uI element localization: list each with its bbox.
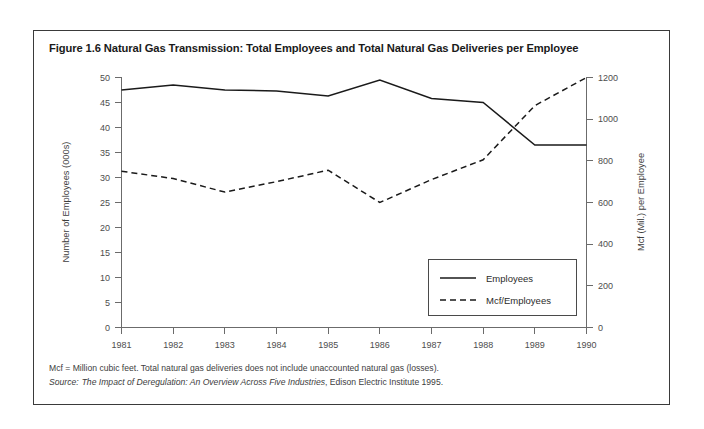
x-tick-label: 1985 xyxy=(318,340,338,350)
y-left-tick-label: 25 xyxy=(100,198,110,208)
x-axis-ticks xyxy=(122,328,587,335)
x-tick-label: 1983 xyxy=(215,340,235,350)
y-left-tick-label: 35 xyxy=(100,148,110,158)
figure-footnotes: Mcf = Million cubic feet. Total natural … xyxy=(49,361,649,389)
y-axis-left-title: Number of Employees (000s) xyxy=(61,142,71,263)
y-left-tick-label: 45 xyxy=(100,98,110,108)
legend-box xyxy=(429,260,577,316)
chart-legend: Employees Mcf/Employees xyxy=(429,260,577,316)
figure-title: Figure 1.6 Natural Gas Transmission: Tot… xyxy=(49,42,578,54)
y-left-tick-label: 0 xyxy=(105,323,110,333)
y-right-tick-label: 200 xyxy=(598,281,613,291)
source-suffix: , Edison Electric Institute 1995. xyxy=(325,377,443,387)
footnote-source: Source:The Impact of Deregulation: An Ov… xyxy=(49,375,649,389)
x-tick-label: 1987 xyxy=(421,340,441,350)
figure-frame: Figure 1.6 Natural Gas Transmission: Tot… xyxy=(33,30,670,405)
y-axis-right-tick-labels: 0 200 400 600 800 1000 1200 xyxy=(598,73,618,333)
y-axis-right-ticks xyxy=(587,78,594,328)
chart-plot-area: 0 5 10 15 20 25 30 35 40 45 50 Number of… xyxy=(49,67,659,357)
x-tick-label: 1986 xyxy=(370,340,390,350)
y-left-tick-label: 30 xyxy=(100,173,110,183)
y-left-tick-label: 10 xyxy=(100,273,110,283)
y-left-tick-label: 20 xyxy=(100,223,110,233)
x-tick-label: 1989 xyxy=(525,340,545,350)
x-tick-label: 1988 xyxy=(473,340,493,350)
y-right-tick-label: 800 xyxy=(598,156,613,166)
y-right-tick-label: 400 xyxy=(598,239,613,249)
source-title: The Impact of Deregulation: An Overview … xyxy=(82,377,325,387)
x-tick-label: 1990 xyxy=(576,340,596,350)
footnote-mcf-definition: Mcf = Million cubic feet. Total natural … xyxy=(49,361,649,375)
y-left-tick-label: 5 xyxy=(105,298,110,308)
y-axis-left-tick-labels: 0 5 10 15 20 25 30 35 40 45 50 xyxy=(100,73,110,333)
source-prefix: Source: xyxy=(49,377,79,387)
x-tick-label: 1982 xyxy=(163,340,183,350)
series-line-mcf-per-employee xyxy=(122,78,587,203)
y-axis-right-title: Mcf (Mil.) per Employee xyxy=(636,153,646,251)
series-line-employees xyxy=(122,80,587,145)
y-left-tick-label: 50 xyxy=(100,73,110,83)
x-tick-label: 1984 xyxy=(266,340,286,350)
y-left-tick-label: 40 xyxy=(100,123,110,133)
x-tick-label: 1981 xyxy=(111,340,131,350)
y-right-tick-label: 1000 xyxy=(598,114,618,124)
y-left-tick-label: 15 xyxy=(100,248,110,258)
legend-label-mcf-per-employee: Mcf/Employees xyxy=(486,295,551,306)
y-axis-left-ticks xyxy=(115,78,122,328)
y-right-tick-label: 600 xyxy=(598,198,613,208)
x-axis-tick-labels: 1981 1982 1983 1984 1985 1986 1987 1988 … xyxy=(111,340,596,350)
line-chart: 0 5 10 15 20 25 30 35 40 45 50 Number of… xyxy=(49,67,659,357)
y-right-tick-label: 1200 xyxy=(598,73,618,83)
y-right-tick-label: 0 xyxy=(598,323,603,333)
legend-label-employees: Employees xyxy=(486,273,533,284)
